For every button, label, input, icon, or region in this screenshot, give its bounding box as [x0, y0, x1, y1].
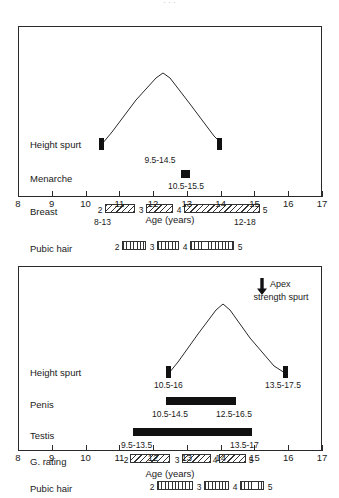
- row-label-pubic-hair-girls: Pubic hair: [30, 243, 72, 254]
- x-axis-tick-label: 11: [114, 453, 124, 463]
- height-spurt-offset-range-boys: 13.5-17.5: [265, 380, 301, 390]
- pubic-hair-girls-stage-num-5: 5: [238, 243, 243, 252]
- pubic-hair-boys-stage-num-4: 4: [233, 483, 238, 492]
- penis-bar: [166, 397, 236, 405]
- x-axis-tick: [322, 191, 323, 197]
- x-axis-tick: [254, 191, 255, 197]
- x-axis-tick-label: 16: [283, 453, 294, 463]
- penis-offset-range: 12.5-16.5: [216, 409, 252, 419]
- x-axis-tick: [18, 445, 19, 451]
- spurt-marker-start-girls: [99, 138, 104, 150]
- chart-panel-girls: Height spurt 9.5-14.5 Menarche 10.5-15.5…: [18, 26, 322, 196]
- x-axis-tick-label: 9: [49, 199, 54, 209]
- x-axis-line-boys: [18, 450, 322, 451]
- x-axis-tick: [187, 445, 188, 451]
- row-label-pubic-hair-boys: Pubic hair: [30, 483, 72, 494]
- spurt-marker-start-boys: [166, 366, 171, 378]
- x-axis-tick: [221, 445, 222, 451]
- x-axis-tick: [119, 445, 120, 451]
- testis-onset-range: 9.5-13.5: [121, 440, 152, 450]
- g-rating-stage-num-2: 2: [124, 456, 129, 465]
- x-axis-tick: [288, 191, 289, 197]
- apex-annotation-line2: strength spurt: [240, 292, 322, 303]
- x-axis-tick: [86, 445, 87, 451]
- height-spurt-range-girls: 9.5-14.5: [144, 155, 175, 165]
- x-axis-tick-label: 13: [182, 199, 193, 209]
- x-axis-tick-label: 12: [148, 199, 159, 209]
- x-axis-tick-label: 14: [215, 199, 226, 209]
- x-axis-tick-label: 13: [182, 453, 193, 463]
- pubic-hair-boys-stage-num-3: 3: [197, 483, 202, 492]
- pubic-hair-boys-stage-num-5: 5: [268, 483, 273, 492]
- x-axis-tick-label: 14: [215, 453, 226, 463]
- row-label-height-spurt-girls: Height spurt: [30, 139, 81, 150]
- row-label-penis: Penis: [30, 399, 54, 410]
- x-axis-tick-label: 8: [15, 199, 20, 209]
- x-axis-tick: [153, 191, 154, 197]
- row-label-height-spurt-boys: Height spurt: [30, 367, 81, 378]
- pubic-hair-girls-stage-num-2: 2: [115, 243, 120, 252]
- x-axis-tick: [221, 191, 222, 197]
- x-axis-tick: [187, 191, 188, 197]
- x-axis-tick-label: 8: [15, 453, 20, 463]
- x-axis-tick-label: 15: [249, 453, 260, 463]
- x-axis-tick: [288, 445, 289, 451]
- x-axis-tick-label: 10: [80, 199, 91, 209]
- apex-annotation-line1: Apex: [270, 279, 291, 290]
- x-axis-title-girls: Age (years): [18, 214, 322, 225]
- x-axis-tick-label: 17: [317, 199, 328, 209]
- x-axis-tick-label: 16: [283, 199, 294, 209]
- menarche-marker: [181, 170, 190, 178]
- pubic-hair-girls-stage-bar-2: [122, 241, 146, 250]
- pubic-hair-boys-stage-bar-4: [240, 481, 264, 490]
- spurt-marker-end-boys: [283, 366, 288, 378]
- pubic-hair-girls-stage-num-4: 4: [183, 243, 188, 252]
- pubic-hair-girls-stage-num-3: 3: [150, 243, 155, 252]
- chart-panel-boys: Apex strength spurt Height spurt 10.5-16…: [18, 266, 322, 450]
- x-axis-tick: [153, 445, 154, 451]
- x-axis-title-boys: Age (years): [18, 468, 322, 479]
- x-axis-tick: [52, 191, 53, 197]
- row-label-testis: Testis: [30, 430, 54, 441]
- x-axis-tick-label: 11: [114, 199, 124, 209]
- pubic-hair-boys-stage-bar-3: [204, 481, 229, 490]
- x-axis-tick: [86, 191, 87, 197]
- penis-onset-range: 10.5-14.5: [152, 409, 188, 419]
- menarche-range: 10.5-15.5: [168, 181, 204, 191]
- x-axis-tick: [18, 191, 19, 197]
- height-spurt-onset-range-boys: 10.5-16: [154, 380, 183, 390]
- row-label-menarche: Menarche: [30, 173, 72, 184]
- x-axis-tick: [52, 445, 53, 451]
- x-axis-tick-label: 12: [148, 453, 159, 463]
- x-axis-tick: [119, 191, 120, 197]
- height-spurt-curve-girls: [18, 26, 322, 196]
- g-rating-stage-num-3: 3: [175, 456, 180, 465]
- x-axis-tick-label: 15: [249, 199, 260, 209]
- x-axis-line-girls: [18, 196, 322, 197]
- cropped-header: . . .: [0, 0, 339, 9]
- pubic-hair-girls-stage-bar-4: [190, 241, 234, 250]
- pubic-hair-boys-stage-num-2: 2: [150, 483, 155, 492]
- x-axis-tick-label: 17: [317, 453, 328, 463]
- pubic-hair-boys-stage-bar-2: [157, 481, 193, 490]
- x-axis-tick-label: 9: [49, 453, 54, 463]
- cropped-header-text: . . .: [0, 0, 339, 5]
- x-axis-tick: [322, 445, 323, 451]
- x-axis-tick-label: 10: [80, 453, 91, 463]
- spurt-marker-end-girls: [217, 138, 222, 150]
- x-axis-tick: [254, 445, 255, 451]
- testis-bar: [133, 428, 252, 436]
- figure-canvas: . . . Height spurt 9.5-14.5 Menarche 10.…: [0, 0, 339, 498]
- pubic-hair-girls-stage-bar-3: [157, 241, 179, 250]
